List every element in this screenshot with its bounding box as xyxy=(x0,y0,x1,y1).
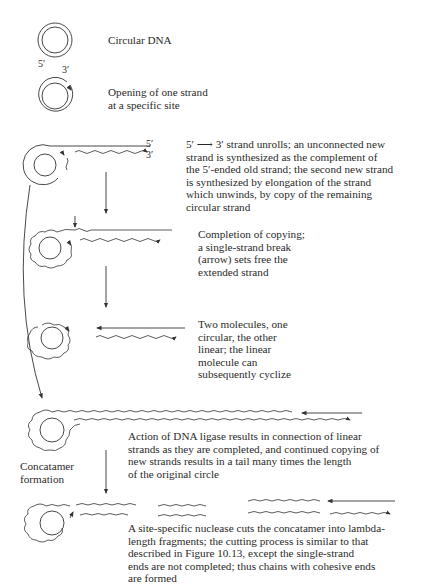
circular-dna-icon xyxy=(38,23,72,57)
caption-unroll: 5′ ⟶ 3′ strand unrolls; an unconnected n… xyxy=(186,138,393,214)
caption-circular-dna: Circular DNA xyxy=(108,34,172,47)
caption-opening: Opening of one strand at a specific site xyxy=(108,86,208,111)
caption-nuclease: A site-specific nuclease cuts the concat… xyxy=(128,522,385,585)
caption-two-molecules: Two molecules, one circular, the other l… xyxy=(198,318,291,381)
five-prime-label: 5′ xyxy=(146,138,153,149)
two-molecules-icon xyxy=(27,323,185,359)
concatamer-formation-label: Concatamer formation xyxy=(20,460,74,485)
curved-arrow xyxy=(23,185,42,398)
completion-icon xyxy=(29,216,172,268)
caption-ligase: Action of DNA ligase results in connecti… xyxy=(128,430,379,480)
three-prime-label: 3′ xyxy=(62,64,69,75)
opened-circle-icon xyxy=(39,77,73,111)
caption-completion: Completion of copying; a single-strand b… xyxy=(198,228,305,278)
five-prime-label: 5′ xyxy=(38,58,45,69)
three-prime-label: 3′ xyxy=(146,149,153,160)
unrolling-circle-icon xyxy=(23,145,150,185)
